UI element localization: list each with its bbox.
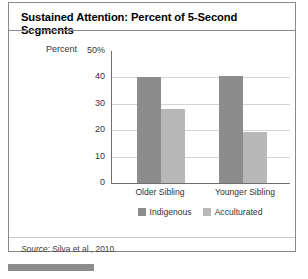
y-tick-label-40: 40 [65, 72, 105, 81]
bar-older-indigenous [137, 77, 161, 183]
source-note: Source: Silva et al., 2010. [21, 244, 116, 254]
source-citation: Silva et al., 2010. [50, 244, 117, 254]
bar-older-acculturated [161, 109, 185, 183]
chart-legend: Indigenous Acculturated [111, 207, 289, 217]
y-tick-label-10: 10 [65, 152, 105, 161]
legend-entry-indigenous: Indigenous [138, 207, 192, 217]
y-tick-label-30: 30 [65, 99, 105, 108]
legend-label-indigenous: Indigenous [150, 207, 192, 217]
source-label: Source: [21, 244, 50, 254]
bar-younger-acculturated [243, 132, 267, 183]
legend-swatch-indigenous [138, 208, 146, 216]
y-tick-label-50: 50% [65, 46, 105, 55]
figure-panel: Sustained Attention: Percent of 5-Second… [8, 2, 296, 252]
footer-accent-bar [8, 264, 94, 271]
bar-younger-indigenous [219, 76, 243, 183]
plot-area [111, 51, 290, 184]
y-tick-label-0: 0 [65, 178, 105, 187]
source-divider [9, 237, 295, 238]
legend-entry-acculturated: Acculturated [203, 207, 263, 217]
y-tick-label-20: 20 [65, 125, 105, 134]
x-tick-label-younger-sibling: Younger Sibling [202, 187, 288, 197]
legend-swatch-acculturated [203, 208, 211, 216]
legend-label-acculturated: Acculturated [215, 207, 263, 217]
bar-chart: Percent 50% 40 30 20 10 0 Older Sibling … [9, 31, 295, 252]
x-tick-label-older-sibling: Older Sibling [120, 187, 200, 197]
